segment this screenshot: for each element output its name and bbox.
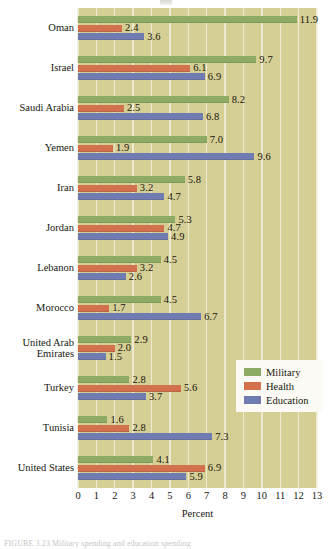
x-tick-4: 4 — [149, 490, 154, 502]
category-label: Oman — [0, 22, 74, 34]
bar-value-label: 6.9 — [208, 72, 221, 83]
category-label: Israel — [0, 62, 74, 74]
x-tick-5: 5 — [167, 490, 172, 502]
bar-value-label: 3.7 — [149, 392, 162, 403]
bar-group: 4.53.22.6 — [78, 256, 317, 280]
clipped-title-artifact — [160, 0, 172, 5]
bar-group: 9.76.16.9 — [78, 56, 317, 80]
bar-military — [78, 16, 297, 23]
x-tick-9: 9 — [241, 490, 246, 502]
bar-value-label: 3.2 — [140, 183, 153, 194]
legend-swatch-icon — [244, 396, 261, 404]
plot-area: 11.92.43.69.76.16.98.22.56.87.01.99.65.8… — [78, 8, 317, 488]
x-tick-7: 7 — [204, 490, 209, 502]
bar-education — [78, 473, 186, 480]
bar-health — [78, 225, 164, 232]
legend-item-military: Military — [244, 366, 300, 378]
bar-military — [78, 56, 256, 63]
bar-value-label: 9.7 — [259, 55, 272, 66]
bar-health — [78, 145, 113, 152]
legend-label: Military — [266, 367, 300, 378]
bar-education — [78, 193, 164, 200]
legend-item-health: Health — [244, 380, 294, 392]
figure-caption: FIGURE 3.23 Military spending and educat… — [4, 539, 330, 549]
bar-value-label: 1.5 — [109, 352, 122, 363]
bar-group: 1.62.87.3 — [78, 416, 317, 440]
bar-value-label: 6.8 — [206, 112, 219, 123]
bar-education — [78, 353, 106, 360]
bar-value-label: 2.8 — [132, 375, 145, 386]
bar-education — [78, 233, 168, 240]
bar-value-label: 2.5 — [127, 103, 140, 114]
x-tick-13: 13 — [312, 490, 323, 502]
bar-education — [78, 153, 254, 160]
bar-value-label: 2.9 — [134, 335, 147, 346]
category-label: United States — [0, 462, 74, 474]
category-label: United Arab Emirates — [0, 337, 74, 360]
x-tick-8: 8 — [222, 490, 227, 502]
bar-value-label: 4.9 — [171, 232, 184, 243]
figure-container: OmanIsraelSaudi ArabiaYemenIranJordanLeb… — [0, 0, 334, 549]
bar-value-label: 6.7 — [204, 312, 217, 323]
bar-education — [78, 33, 144, 40]
x-tick-12: 12 — [293, 490, 304, 502]
bar-value-label: 3.6 — [147, 32, 160, 43]
bar-value-label: 7.3 — [215, 432, 228, 443]
x-tick-0: 0 — [75, 490, 80, 502]
bar-value-label: 5.8 — [188, 175, 201, 186]
bar-health — [78, 385, 181, 392]
bar-value-label: 9.6 — [257, 152, 270, 163]
legend-swatch-icon — [244, 368, 261, 376]
bar-value-label: 6.1 — [193, 63, 206, 74]
bar-health — [78, 465, 205, 472]
bar-education — [78, 273, 126, 280]
category-label: Lebanon — [0, 262, 74, 274]
bar-group: 5.83.24.7 — [78, 176, 317, 200]
x-tick-3: 3 — [131, 490, 136, 502]
x-tick-1: 1 — [94, 490, 99, 502]
bar-value-label: 1.9 — [116, 143, 129, 154]
bar-health — [78, 185, 137, 192]
bar-education — [78, 73, 205, 80]
bar-group: 4.16.95.9 — [78, 456, 317, 480]
category-label: Yemen — [0, 142, 74, 154]
bar-military — [78, 136, 207, 143]
bar-military — [78, 96, 229, 103]
x-tick-10: 10 — [257, 490, 268, 502]
bar-education — [78, 313, 201, 320]
value-axis-ticks: 012345678910111213 — [78, 490, 317, 506]
bar-group: 8.22.56.8 — [78, 96, 317, 120]
bar-value-label: 4.1 — [156, 455, 169, 466]
bar-military — [78, 456, 153, 463]
x-tick-11: 11 — [275, 490, 285, 502]
category-label: Morocco — [0, 302, 74, 314]
bar-value-label: 8.2 — [232, 95, 245, 106]
legend-item-education: Education — [244, 394, 309, 406]
bar-health — [78, 25, 122, 32]
x-axis-title: Percent — [78, 508, 317, 519]
bar-group: 5.34.74.9 — [78, 216, 317, 240]
bar-value-label: 4.5 — [164, 295, 177, 306]
bar-value-label: 2.4 — [125, 23, 138, 34]
bar-military — [78, 376, 129, 383]
bar-value-label: 1.7 — [112, 303, 125, 314]
bar-value-label: 7.0 — [210, 135, 223, 146]
bar-education — [78, 433, 212, 440]
category-label: Jordan — [0, 222, 74, 234]
bar-group: 2.92.01.5 — [78, 336, 317, 360]
bar-health — [78, 265, 137, 272]
bar-value-label: 1.6 — [110, 415, 123, 426]
bar-education — [78, 393, 146, 400]
category-label: Turkey — [0, 382, 74, 394]
legend-label: Health — [266, 381, 294, 392]
category-label: Tunisia — [0, 422, 74, 434]
category-axis-labels: OmanIsraelSaudi ArabiaYemenIranJordanLeb… — [0, 8, 74, 488]
bar-group: 11.92.43.6 — [78, 16, 317, 40]
bar-value-label: 11.9 — [300, 15, 318, 26]
bar-military — [78, 216, 175, 223]
bar-value-label: 4.7 — [167, 192, 180, 203]
bar-military — [78, 416, 107, 423]
x-tick-6: 6 — [186, 490, 191, 502]
bar-value-label: 2.6 — [129, 272, 142, 283]
bar-value-label: 2.8 — [132, 423, 145, 434]
